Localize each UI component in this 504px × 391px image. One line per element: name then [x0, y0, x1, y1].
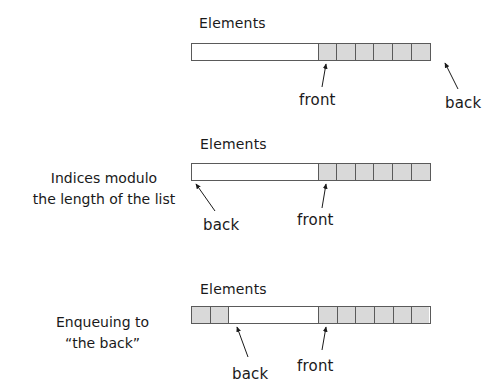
queued-cell — [356, 164, 375, 180]
queued-cell — [319, 44, 338, 60]
queued-cell — [356, 44, 375, 60]
elements-array — [191, 43, 431, 61]
queued-cell — [412, 164, 430, 180]
elements-heading: Elements — [199, 16, 266, 30]
side-caption-line: the length of the list — [18, 189, 190, 210]
queued-cell — [412, 44, 430, 60]
elements-heading: Elements — [200, 137, 267, 151]
back-label: back — [232, 367, 268, 382]
side-caption-line: Indices modulo — [18, 168, 190, 189]
back-label: back — [203, 218, 239, 233]
front-label: front — [299, 93, 336, 108]
back-arrow-icon — [196, 184, 215, 211]
front-arrow-icon — [322, 327, 326, 350]
back-label: back — [445, 96, 481, 111]
elements-heading: Elements — [200, 282, 267, 296]
queued-cell — [412, 307, 429, 323]
front-arrow-icon — [322, 184, 326, 208]
back-arrow-icon — [445, 63, 458, 89]
empty-region — [229, 307, 319, 323]
queued-cell — [337, 164, 356, 180]
front-label: front — [297, 213, 334, 228]
empty-region — [192, 164, 319, 180]
elements-array — [191, 306, 431, 324]
side-caption-line: “the back” — [40, 333, 165, 354]
empty-region — [192, 44, 319, 60]
queued-cell — [319, 307, 338, 323]
queued-cell — [211, 307, 230, 323]
side-caption: Enqueuing to “the back” — [40, 312, 165, 354]
queued-cell — [319, 164, 338, 180]
side-caption: Indices modulo the length of the list — [18, 168, 190, 210]
front-label: front — [297, 359, 334, 374]
front-arrow-icon — [322, 64, 326, 87]
queued-cell — [337, 44, 356, 60]
queued-cell — [375, 307, 394, 323]
queued-cell — [374, 44, 393, 60]
elements-array — [191, 163, 431, 181]
queued-cell — [394, 307, 413, 323]
queued-cell — [356, 307, 375, 323]
queued-cell — [393, 164, 412, 180]
side-caption-line: Enqueuing to — [40, 312, 165, 333]
queued-cell — [192, 307, 211, 323]
queued-cell — [374, 164, 393, 180]
queued-cell — [393, 44, 412, 60]
queued-cell — [338, 307, 357, 323]
back-arrow-icon — [237, 327, 248, 357]
